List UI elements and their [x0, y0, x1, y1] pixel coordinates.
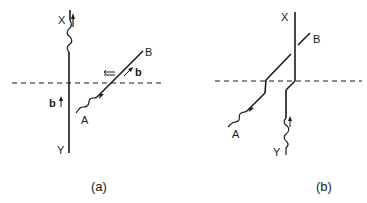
panel-b-line-lower-diagonal [247, 93, 265, 111]
panel-a-caption: (a) [91, 180, 107, 193]
panel-b-label-a: A [232, 129, 239, 140]
panel-a-label-burgers-1: b [135, 67, 142, 78]
panel-b-kink-y [284, 118, 289, 155]
panel-a-drawing [12, 10, 163, 153]
panel-b-line-b [298, 33, 310, 45]
panel-b-jog-y [286, 81, 295, 90]
panel-a-label-x: X [58, 15, 65, 26]
hollow-arrow-left-icon [104, 70, 115, 75]
arrowhead-up-icon [71, 13, 75, 19]
arrowhead-b-y-icon [288, 116, 292, 121]
panel-b-kink-a [228, 111, 247, 127]
panel-b-label-x: X [281, 12, 288, 23]
panel-a-label-b-end: B [145, 47, 152, 58]
panel-b-jog-a [265, 80, 266, 93]
panel-a-kink-x [67, 20, 72, 52]
panel-b-label-b-end: B [313, 34, 320, 45]
panel-a-kink-a [76, 97, 97, 113]
panel-b-caption: (b) [316, 180, 332, 193]
panel-b-line-upper-diagonal [266, 54, 291, 80]
arrowhead-b-left-icon [59, 96, 63, 101]
panel-a-label-a: A [81, 115, 88, 126]
panel-a-label-burgers-2: b [49, 98, 56, 109]
panel-a-label-y: Y [57, 145, 64, 156]
panel-b-label-y: Y [273, 147, 280, 158]
